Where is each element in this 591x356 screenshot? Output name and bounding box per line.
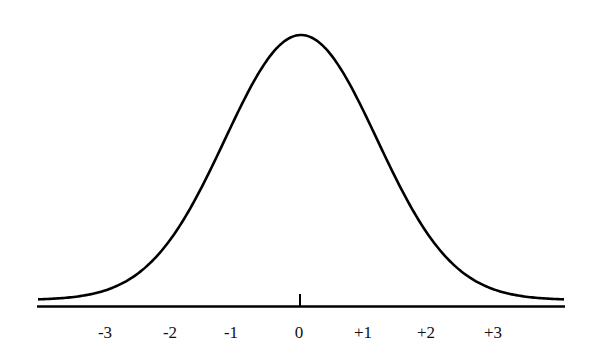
tick-label-neg3: -3 <box>98 323 112 342</box>
tick-label-neg2: -2 <box>163 323 177 342</box>
x-tick-labels: -3 -2 -1 0 +1 +2 +3 <box>98 323 502 342</box>
tick-label-pos3: +3 <box>484 323 502 342</box>
tick-label-0: 0 <box>295 323 304 342</box>
tick-label-neg1: -1 <box>224 323 238 342</box>
tick-label-pos2: +2 <box>417 323 435 342</box>
normal-curve <box>38 35 564 299</box>
bell-curve-chart: -3 -2 -1 0 +1 +2 +3 <box>0 0 591 356</box>
tick-label-pos1: +1 <box>354 323 372 342</box>
